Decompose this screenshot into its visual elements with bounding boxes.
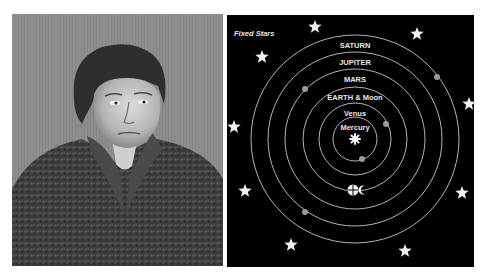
star-icon [462,97,474,110]
planet-saturn [302,209,308,215]
orbit-label-mercury: Mercury [340,123,370,132]
star-icon [410,27,423,40]
portrait-engraving [12,14,223,266]
planet-mercury [359,156,365,162]
star-icon [255,50,268,63]
orbit-label-saturn: SATURN [340,41,371,50]
planet-jupiter [434,74,440,80]
earth-moon-icon [348,185,366,196]
star-icon [227,120,240,133]
star-icon [455,186,468,199]
portrait-image [12,14,223,266]
planet-venus [383,121,389,127]
solar-system-svg: Fixed Stars MercuryVenusEARTH & MoonMARS… [227,15,474,267]
fixed-stars-label: Fixed Stars [234,29,274,38]
star-icon [284,238,297,251]
orbit-label-mars: MARS [344,75,366,84]
orbit-label-venus: Venus [344,109,366,118]
sun-icon [350,134,360,144]
orbit-label-jupiter: JUPITER [339,58,371,67]
heliocentric-diagram: Fixed Stars MercuryVenusEARTH & MoonMARS… [227,15,474,267]
star-icon [308,20,321,33]
orbit-label-earth: EARTH & Moon [327,93,383,102]
star-icon [398,244,411,257]
star-icon [238,184,251,197]
planet-mars [302,86,308,92]
